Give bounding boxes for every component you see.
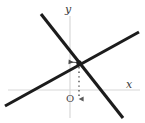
diagram-svg <box>0 0 145 123</box>
origin-label: O <box>66 94 74 104</box>
figure-canvas: y x O <box>0 0 145 123</box>
left-pointing-arrow <box>69 62 77 63</box>
y-axis-label: y <box>65 4 71 15</box>
intersection-point <box>76 60 81 65</box>
x-axis-label: x <box>126 79 132 90</box>
falling-line <box>41 14 123 118</box>
